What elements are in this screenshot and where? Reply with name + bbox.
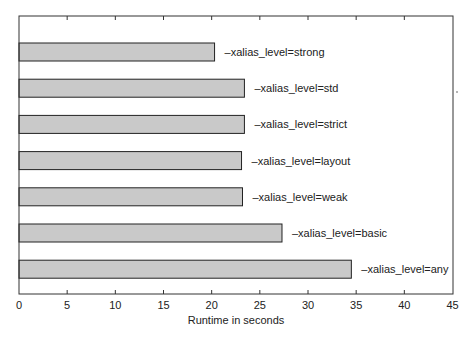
bar bbox=[19, 188, 242, 206]
tick-label: 5 bbox=[64, 299, 70, 311]
tick-label: 0 bbox=[16, 299, 22, 311]
tick-label: 30 bbox=[302, 299, 314, 311]
runtime-bar-chart: –xalias_level=strong–xalias_level=std–xa… bbox=[0, 0, 474, 341]
bar bbox=[19, 115, 244, 133]
stray-dot bbox=[456, 91, 458, 93]
bar bbox=[19, 224, 282, 242]
tick-label: 10 bbox=[109, 299, 121, 311]
bars-group: –xalias_level=strong–xalias_level=std–xa… bbox=[19, 43, 449, 278]
tick-label: 45 bbox=[446, 299, 458, 311]
bar-label: –xalias_level=basic bbox=[292, 227, 388, 239]
bar-label: –xalias_level=strict bbox=[254, 118, 347, 130]
bar-label: –xalias_level=any bbox=[361, 263, 449, 275]
tick-label: 15 bbox=[157, 299, 169, 311]
tick-label: 25 bbox=[254, 299, 266, 311]
bar bbox=[19, 260, 351, 278]
tick-label: 35 bbox=[350, 299, 362, 311]
bar-label: –xalias_level=weak bbox=[252, 191, 348, 203]
bar bbox=[19, 79, 244, 97]
x-axis-title: Runtime in seconds bbox=[188, 314, 285, 326]
tick-label: 40 bbox=[398, 299, 410, 311]
bar-label: –xalias_level=layout bbox=[252, 155, 351, 167]
tick-label: 20 bbox=[206, 299, 218, 311]
bar-label: –xalias_level=strong bbox=[225, 46, 325, 58]
bar bbox=[19, 43, 215, 61]
bar-label: –xalias_level=std bbox=[254, 82, 338, 94]
bar bbox=[19, 152, 242, 170]
